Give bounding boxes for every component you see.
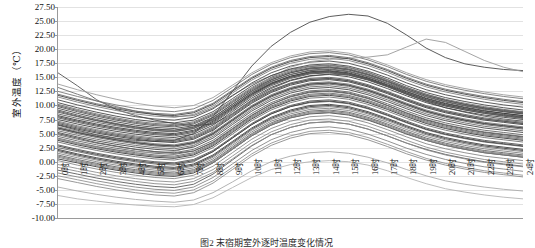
y-tick-label: 12.50 <box>8 87 55 96</box>
y-tick-label: 20.00 <box>8 45 55 54</box>
x-tick-label: 10时 <box>254 158 263 176</box>
x-tick-label: 9时 <box>235 162 244 175</box>
x-tick-label: 13时 <box>312 158 321 176</box>
y-tick-label: 2.50 <box>8 143 55 152</box>
x-tick-label: 4时 <box>138 162 147 175</box>
x-tick-label: 6时 <box>177 162 186 175</box>
x-tick-label: 15时 <box>351 158 360 176</box>
y-tick-label: 25.00 <box>8 17 55 26</box>
x-tick-label: 17时 <box>390 158 399 176</box>
x-tick-label: 22时 <box>487 158 496 176</box>
x-tick-label: 19时 <box>429 158 438 176</box>
x-tick-label: 0时 <box>61 162 70 175</box>
x-tick-label: 1时 <box>80 162 89 175</box>
y-tick-label: -2.50 <box>8 171 55 180</box>
x-tick-label: 18时 <box>409 158 418 176</box>
x-tick-label: 14时 <box>332 158 341 176</box>
x-tick-label: 11时 <box>274 158 283 175</box>
figure-caption: 图2 末宿期室外逐时温度变化情况 <box>0 236 533 248</box>
x-tick-label: 12时 <box>293 158 302 176</box>
x-axis-tick-labels: 0时1时2时3时4时5时6时7时8时9时10时11时12时13时14时15时16… <box>57 0 522 248</box>
x-tick-label: 16时 <box>371 158 380 176</box>
y-tick-label: 10.00 <box>8 101 55 110</box>
x-tick-label: 24时 <box>526 158 535 176</box>
y-tick-label: -7.50 <box>8 199 55 208</box>
x-tick-label: 20时 <box>448 158 457 176</box>
y-axis-tick-labels: 27.5025.0022.5020.0017.5015.0012.5010.00… <box>8 0 55 220</box>
y-tick-label: -10.00 <box>8 214 55 223</box>
x-tick-label: 23时 <box>506 158 515 176</box>
y-tick-label: 0.00 <box>8 157 55 166</box>
x-tick-label: 7时 <box>196 162 205 175</box>
x-tick-label: 8时 <box>216 162 225 175</box>
y-tick-label: 27.50 <box>8 3 55 12</box>
x-tick-label: 3时 <box>119 162 128 175</box>
y-tick-label: 7.50 <box>8 115 55 124</box>
y-tick-label: 22.50 <box>8 31 55 40</box>
y-tick-label: 17.50 <box>8 59 55 68</box>
y-tick-label: 5.00 <box>8 129 55 138</box>
x-tick-label: 5时 <box>157 162 166 175</box>
y-tick-label: -5.00 <box>8 185 55 194</box>
x-tick-label: 21时 <box>467 158 476 176</box>
y-tick-label: 15.00 <box>8 73 55 82</box>
x-tick-label: 2时 <box>99 162 108 175</box>
